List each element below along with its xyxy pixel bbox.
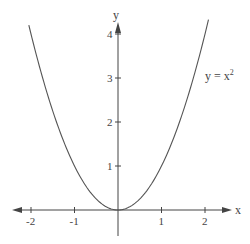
y-axis-label: y (113, 8, 119, 22)
x-tick-label: -1 (70, 215, 79, 227)
x-axis-label: x (235, 203, 241, 217)
y-axis-up-arrow-icon (115, 22, 121, 33)
x-tick-label: 2 (202, 215, 208, 227)
x-tick-label: -2 (26, 215, 35, 227)
parabola-curve (29, 20, 209, 210)
x-tick-label: 1 (159, 215, 165, 227)
x-axis-left-arrow-icon (12, 207, 22, 213)
y-tick-label: 4 (107, 28, 113, 40)
axis-ticks: -2-1121234 (26, 28, 208, 227)
y-tick-label: 1 (107, 160, 113, 172)
curve-label: y = x2 (205, 68, 234, 83)
y-tick-label: 3 (107, 72, 113, 84)
curve-label-exponent: 2 (230, 68, 234, 77)
x-axis-right-arrow-icon (222, 207, 232, 213)
y-tick-label: 2 (107, 116, 113, 128)
parabola-chart: x y -2-1121234 y = x2 (0, 0, 250, 244)
